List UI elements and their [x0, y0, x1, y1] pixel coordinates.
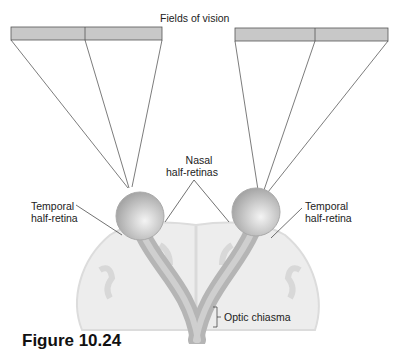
label-line: half-retinas	[166, 166, 218, 178]
label-nasal-half-retinas: Nasal half-retinas	[166, 154, 218, 178]
left-visual-field	[11, 27, 162, 40]
left-eye	[116, 192, 164, 240]
label-line: half-retina	[305, 212, 352, 224]
label-line: half-retina	[31, 212, 78, 224]
title-fields-of-vision: Fields of vision	[160, 12, 229, 24]
label-temporal-left: Temporal half-retina	[31, 200, 78, 224]
right-eye	[232, 188, 280, 236]
figure-caption: Figure 10.24	[22, 331, 121, 351]
label-line: Temporal	[31, 200, 78, 212]
label-temporal-right: Temporal half-retina	[305, 200, 352, 224]
label-optic-chiasma: Optic chiasma	[224, 311, 291, 323]
label-line: Nasal	[166, 154, 218, 166]
label-line: Temporal	[305, 200, 352, 212]
right-visual-field	[235, 28, 388, 41]
